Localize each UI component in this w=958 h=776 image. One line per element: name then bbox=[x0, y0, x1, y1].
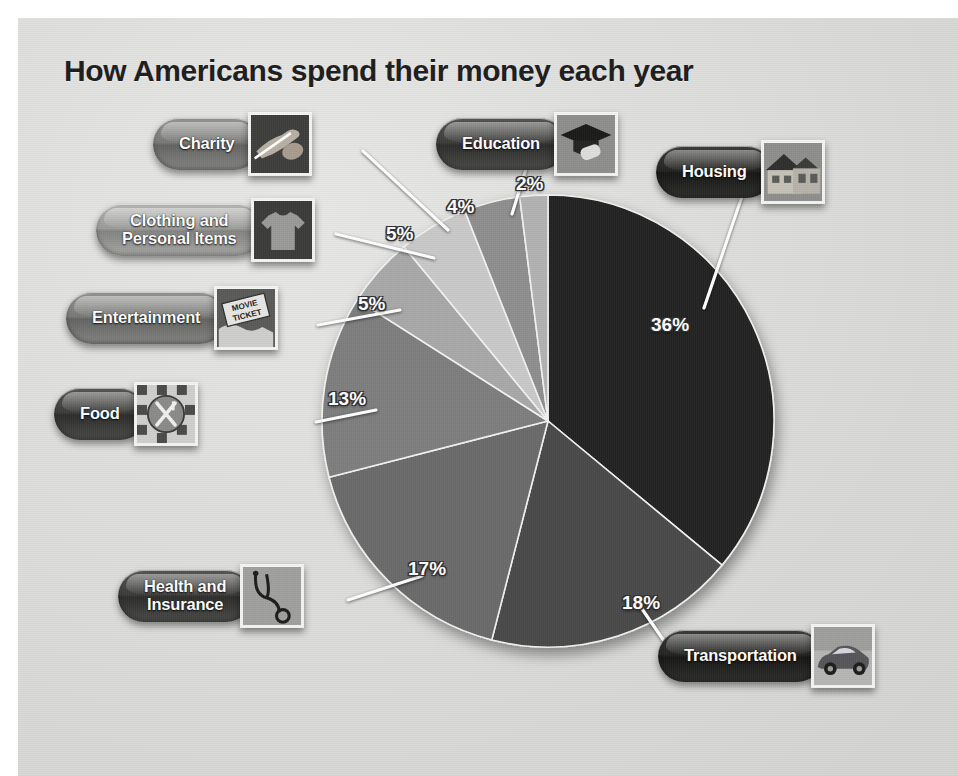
page-title: How Americans spend their money each yea… bbox=[64, 54, 693, 88]
graduation-cap-icon bbox=[554, 112, 618, 176]
transportation-label: Transportation bbox=[684, 647, 797, 665]
entertainment-label: Entertainment bbox=[92, 309, 200, 327]
food-label: Food bbox=[80, 405, 120, 423]
callout-health[interactable]: Health and Insurance bbox=[118, 568, 304, 624]
education-label: Education bbox=[462, 135, 540, 153]
health-label: Health and Insurance bbox=[144, 578, 226, 614]
callout-food[interactable]: Food bbox=[54, 386, 198, 442]
callout-housing[interactable]: Housing bbox=[656, 144, 825, 200]
movie-ticket-icon: MOVIE TICKET bbox=[214, 286, 278, 350]
callout-charity[interactable]: Charity bbox=[153, 116, 312, 172]
clothing-label: Clothing and Personal Items bbox=[122, 212, 237, 248]
callout-entertainment[interactable]: Entertainment MOVIE TICKET bbox=[66, 290, 278, 346]
callout-education[interactable]: Education bbox=[436, 116, 618, 172]
health-pill[interactable]: Health and Insurance bbox=[118, 570, 252, 622]
entertainment-pill[interactable]: Entertainment bbox=[66, 292, 226, 344]
education-pill[interactable]: Education bbox=[436, 118, 566, 170]
pct-education: 2% bbox=[516, 173, 543, 195]
stethoscope-icon bbox=[240, 564, 304, 628]
charity-label: Charity bbox=[179, 135, 234, 153]
pct-health: 17% bbox=[408, 558, 446, 580]
pct-housing: 36% bbox=[651, 314, 689, 336]
housing-label: Housing bbox=[682, 163, 747, 181]
plate-fork-knife-icon bbox=[134, 382, 198, 446]
callout-clothing[interactable]: Clothing and Personal Items bbox=[96, 202, 315, 258]
transportation-pill[interactable]: Transportation bbox=[658, 630, 823, 682]
helping-hands-icon bbox=[248, 112, 312, 176]
callout-transportation[interactable]: Transportation bbox=[658, 628, 875, 684]
charity-pill[interactable]: Charity bbox=[153, 118, 260, 170]
tshirt-icon bbox=[251, 198, 315, 262]
pie-chart bbox=[320, 193, 776, 649]
pct-charity: 4% bbox=[447, 196, 474, 218]
pct-food: 13% bbox=[328, 388, 366, 410]
food-pill[interactable]: Food bbox=[54, 388, 146, 440]
clothing-pill[interactable]: Clothing and Personal Items bbox=[96, 204, 263, 256]
pct-transportation: 18% bbox=[622, 592, 660, 614]
housing-pill[interactable]: Housing bbox=[656, 146, 773, 198]
house-icon bbox=[761, 140, 825, 204]
car-icon bbox=[811, 624, 875, 688]
pct-clothing: 5% bbox=[386, 223, 413, 245]
infographic-poster: How Americans spend their money each yea… bbox=[18, 18, 958, 776]
pct-entertainment: 5% bbox=[358, 293, 385, 315]
